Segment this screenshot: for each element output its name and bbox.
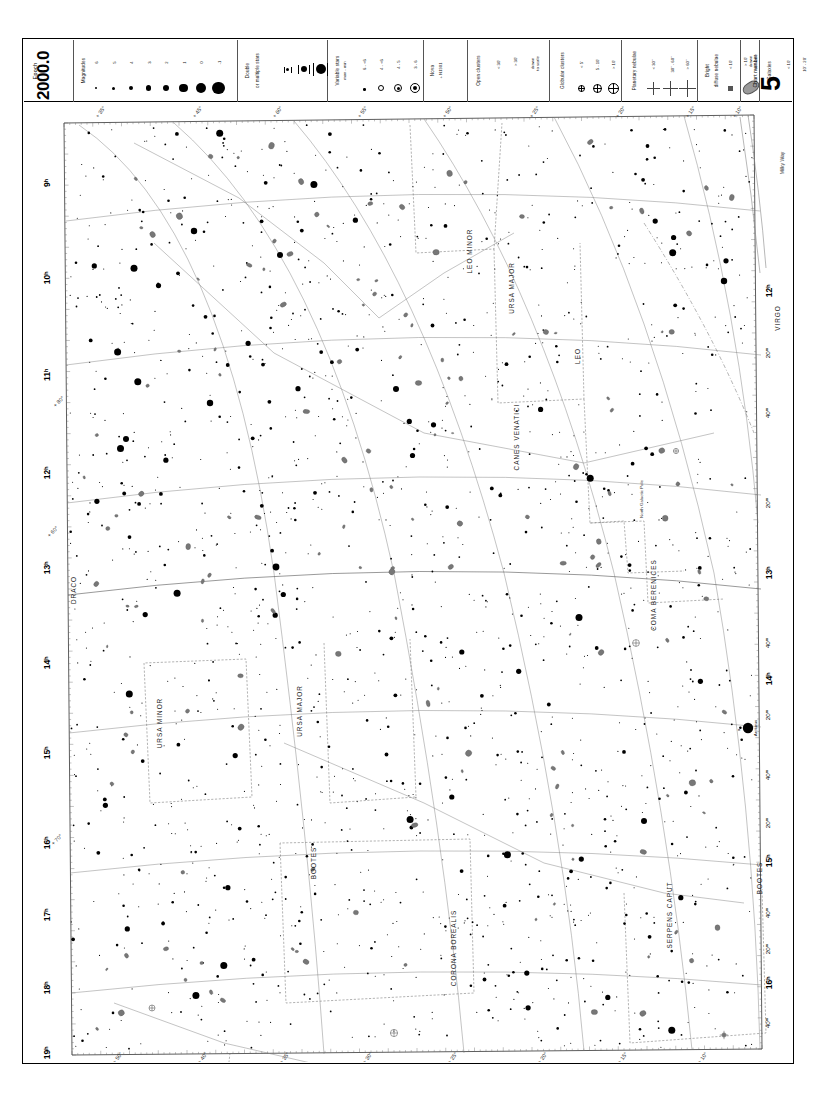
star-point xyxy=(92,454,94,456)
star-point xyxy=(294,925,296,927)
minute-label-right: 40ᵐ xyxy=(764,907,771,918)
star-point xyxy=(723,187,724,188)
star-point xyxy=(709,537,712,540)
star-point xyxy=(70,543,71,544)
star-point xyxy=(632,209,633,210)
chart-svg: LEO MINORURSA MAJORLEOCANES VENATICIVIRG… xyxy=(24,103,792,1062)
star-point xyxy=(298,764,299,765)
star-point xyxy=(279,164,281,166)
star-point xyxy=(279,573,280,574)
star-point xyxy=(567,282,568,283)
star-point xyxy=(260,504,264,508)
star-point xyxy=(607,543,608,544)
star-point xyxy=(104,622,105,623)
star-point xyxy=(734,992,735,993)
star-point xyxy=(532,205,533,206)
star-point xyxy=(492,1017,494,1019)
star-point xyxy=(727,629,728,630)
star-point xyxy=(489,209,490,210)
star-point xyxy=(550,834,551,835)
star-point xyxy=(378,152,381,155)
star-point xyxy=(238,466,241,469)
star-point xyxy=(551,894,553,896)
star-point xyxy=(401,488,402,489)
star-point xyxy=(215,910,216,911)
star-point xyxy=(447,459,448,460)
star-point xyxy=(110,212,111,213)
galaxy-symbol xyxy=(403,312,409,318)
star-point xyxy=(237,841,238,842)
star-point xyxy=(355,437,356,438)
dec-label-left: + 60° xyxy=(46,525,59,538)
star-point xyxy=(431,324,435,328)
star-point xyxy=(529,883,531,885)
star-point xyxy=(564,904,565,905)
star-point xyxy=(558,354,560,356)
star-point xyxy=(664,128,667,131)
star-point xyxy=(628,338,629,339)
ra-label-left: 13ʰ xyxy=(42,562,52,575)
star-point xyxy=(369,611,370,612)
star-point xyxy=(181,720,182,721)
star-point xyxy=(629,202,630,203)
star-point xyxy=(633,257,634,258)
star-point xyxy=(87,1033,89,1035)
star-point xyxy=(158,904,159,905)
star-point xyxy=(75,261,78,264)
star-point xyxy=(123,821,124,822)
star-point xyxy=(710,409,712,411)
star-point xyxy=(583,978,584,979)
star-point xyxy=(700,462,701,463)
star-point xyxy=(182,210,183,211)
star-point xyxy=(741,757,742,758)
galaxy-symbol xyxy=(219,997,226,1003)
star-point xyxy=(682,685,683,686)
star-point xyxy=(411,574,412,575)
star-point xyxy=(262,599,264,601)
galaxy-symbol xyxy=(553,902,556,905)
star-point xyxy=(470,426,472,428)
star-point xyxy=(572,759,573,760)
star-point xyxy=(553,998,554,999)
star-point xyxy=(493,303,494,304)
star-point xyxy=(481,710,482,711)
galaxy-symbol xyxy=(689,779,697,786)
star-point xyxy=(154,330,155,331)
star-point xyxy=(384,246,385,247)
star-point xyxy=(279,725,280,726)
star-point xyxy=(482,936,484,938)
star-point xyxy=(71,728,73,730)
star-point xyxy=(381,902,382,903)
star-point xyxy=(245,945,246,946)
star-point xyxy=(130,299,131,300)
star-point xyxy=(253,630,254,631)
star-point xyxy=(540,503,541,504)
star-point xyxy=(557,238,558,239)
star-point xyxy=(706,267,707,268)
star-point xyxy=(640,917,641,918)
galaxy-symbol xyxy=(648,956,650,959)
star-point xyxy=(550,622,553,625)
star-point xyxy=(99,955,100,956)
star-point xyxy=(243,222,245,224)
galaxy-symbol xyxy=(286,251,294,257)
star-point xyxy=(570,904,571,905)
star-point xyxy=(252,359,253,360)
star-point xyxy=(319,693,321,695)
star-point xyxy=(619,1043,621,1045)
star-point xyxy=(596,505,597,506)
star-point xyxy=(690,669,692,671)
star-point xyxy=(184,421,186,423)
star-point xyxy=(315,155,316,156)
star-point xyxy=(75,1046,76,1047)
star-point xyxy=(679,211,681,213)
star-point xyxy=(445,505,449,509)
star-point xyxy=(142,211,145,214)
star-point xyxy=(298,459,299,460)
star-point xyxy=(194,851,197,854)
star-point xyxy=(604,687,605,688)
star-point xyxy=(673,821,674,822)
star-point xyxy=(368,870,369,871)
star-point xyxy=(216,130,223,137)
constellation-boundaries xyxy=(84,123,766,1062)
